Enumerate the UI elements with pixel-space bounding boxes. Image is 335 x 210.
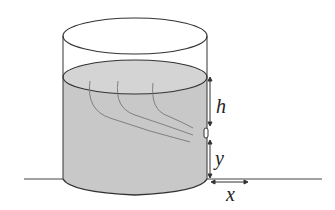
label-y: y [215, 148, 224, 168]
h-dimension-arrow [208, 77, 212, 126]
label-x: x [226, 184, 235, 204]
tank-rim [63, 18, 207, 54]
tank-diagram [0, 0, 335, 210]
label-h: h [216, 96, 226, 116]
hole-icon [204, 128, 208, 138]
water-body [63, 77, 207, 195]
y-dimension-arrow [208, 140, 212, 178]
water-surface [63, 60, 207, 94]
